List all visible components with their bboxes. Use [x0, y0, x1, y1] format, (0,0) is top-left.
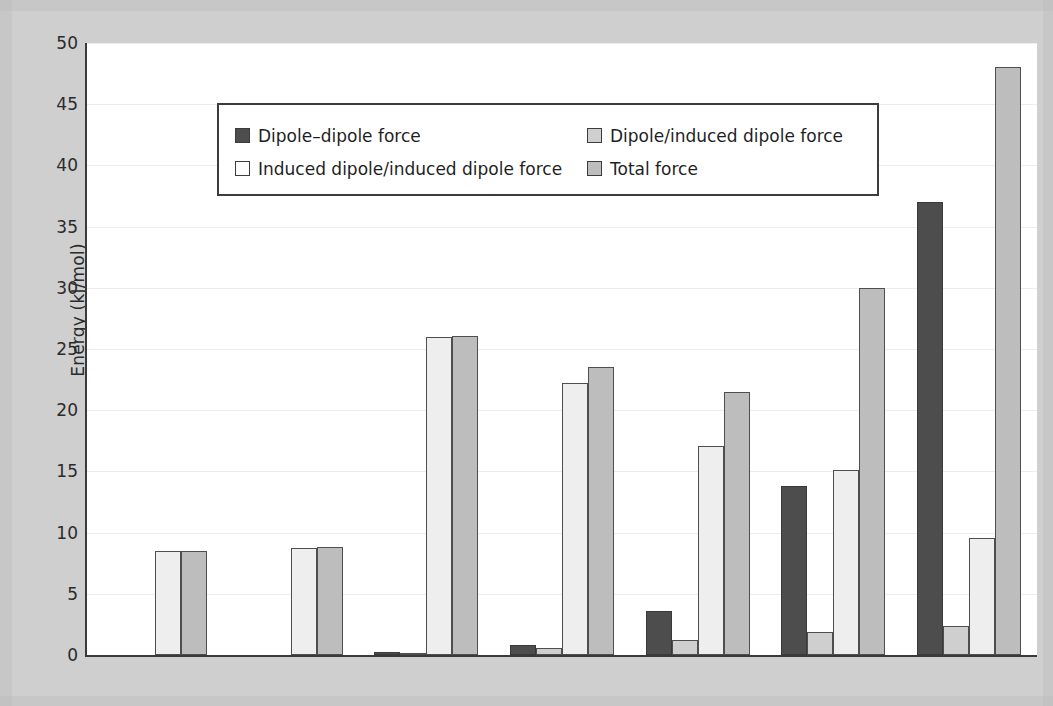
bar: [181, 551, 207, 655]
y-tick-label: 0: [67, 645, 78, 665]
bar: [646, 611, 672, 655]
legend-label: Dipole/induced dipole force: [610, 126, 843, 146]
bar: [562, 383, 588, 655]
legend-entry-dipole-induced-dipole: Dipole/induced dipole force: [587, 126, 843, 146]
legend-label: Dipole–dipole force: [258, 126, 421, 146]
bar: [588, 367, 614, 655]
y-tick-label: 15: [56, 461, 78, 481]
y-tick-label: 40: [56, 155, 78, 175]
legend-entry-induced-induced-dipole: Induced dipole/induced dipole force: [235, 159, 587, 179]
legend-entry-dipole-dipole: Dipole–dipole force: [235, 126, 587, 146]
legend-label: Induced dipole/induced dipole force: [258, 159, 562, 179]
page-edge-left: [0, 0, 12, 706]
bar: [452, 336, 478, 655]
chart-figure: Energy (kJ/mol) 05101520253035404550 Dip…: [0, 0, 1053, 706]
legend-swatch-icon: [235, 161, 250, 176]
y-tick-label: 10: [56, 523, 78, 543]
bar: [781, 486, 807, 655]
bar-group: [901, 43, 1037, 655]
bar: [317, 547, 343, 655]
y-tick-label: 50: [56, 33, 78, 53]
y-tick-label: 25: [56, 339, 78, 359]
bar: [536, 648, 562, 655]
bar: [698, 446, 724, 655]
bar: [807, 632, 833, 655]
page-edge-right: [1043, 0, 1053, 706]
bar: [833, 470, 859, 655]
legend-swatch-icon: [587, 161, 602, 176]
bar: [510, 645, 536, 655]
legend-row: Induced dipole/induced dipole force Tota…: [235, 152, 877, 185]
bar: [155, 551, 181, 655]
bar: [374, 652, 400, 655]
y-tick-label: 5: [67, 584, 78, 604]
legend-swatch-icon: [587, 128, 602, 143]
bar: [995, 67, 1021, 655]
y-tick-label: 45: [56, 94, 78, 114]
bar: [859, 288, 885, 655]
bar: [724, 392, 750, 655]
page-edge-bottom: [0, 696, 1053, 706]
legend-label: Total force: [610, 159, 698, 179]
plot-area: 05101520253035404550 Dipole–dipole force…: [85, 43, 1037, 657]
bar: [426, 337, 452, 655]
legend-row: Dipole–dipole force Dipole/induced dipol…: [235, 119, 877, 152]
bar: [400, 653, 426, 655]
y-tick-label: 30: [56, 278, 78, 298]
bar: [917, 202, 943, 655]
bar: [969, 538, 995, 656]
legend-swatch-icon: [235, 128, 250, 143]
bar: [672, 640, 698, 655]
legend-entry-total-force: Total force: [587, 159, 698, 179]
page-edge-top: [0, 0, 1053, 11]
y-tick-label: 35: [56, 217, 78, 237]
bar-group: [87, 43, 223, 655]
chart-legend: Dipole–dipole force Dipole/induced dipol…: [217, 103, 879, 196]
bar: [943, 626, 969, 655]
bar: [291, 548, 317, 655]
y-tick-label: 20: [56, 400, 78, 420]
